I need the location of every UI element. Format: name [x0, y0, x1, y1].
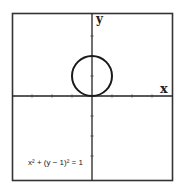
equation-label: x² + (y − 1)² = 1	[28, 158, 83, 167]
y-axis-label: y	[95, 12, 104, 26]
circle-graph: y x x² + (y − 1)² = 1	[0, 0, 181, 188]
x-axis-label: x	[160, 81, 168, 96]
